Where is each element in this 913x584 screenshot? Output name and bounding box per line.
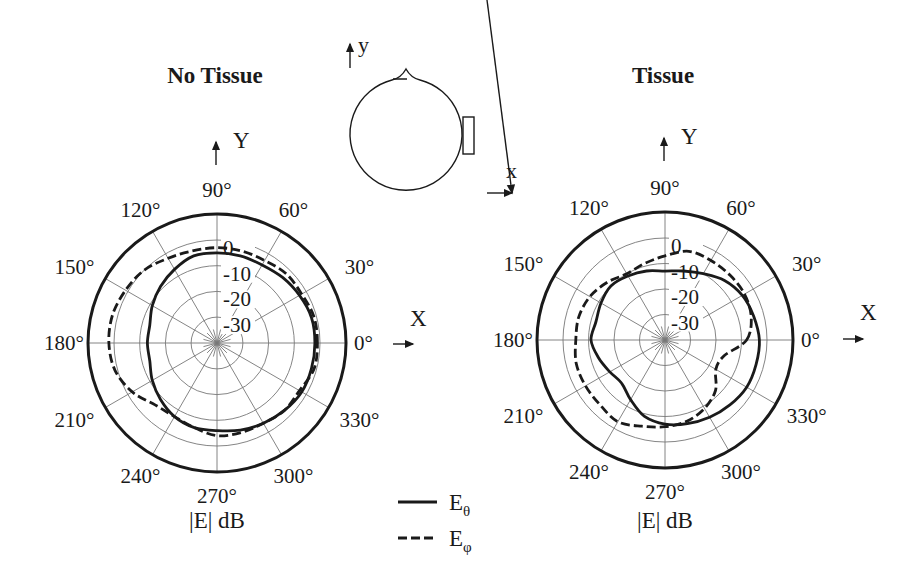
svg-text:Eφ: Eφ [449, 526, 472, 555]
angle-tick-label: 210° [503, 404, 543, 428]
radial-gridline [217, 343, 329, 408]
figure-canvas: No Tissue Y X 0-10-20-300°30°60°90°120°1… [0, 0, 913, 584]
angle-tick-label: 330° [787, 404, 827, 428]
y-axis-label: Y [233, 128, 250, 153]
angle-tick-label: 90° [650, 176, 679, 200]
angle-tick-label: 240° [569, 460, 609, 484]
angle-tick-label: 300° [721, 460, 761, 484]
x-axis-label: X [860, 300, 877, 325]
angle-tick-label: 120° [569, 196, 609, 220]
angle-tick-label: 60° [279, 198, 308, 222]
svg-text:Eθ: Eθ [449, 490, 470, 519]
angle-tick-label: 180° [44, 331, 84, 355]
polar-chart-no-tissue: No Tissue Y X 0-10-20-300°30°60°90°120°1… [44, 63, 427, 533]
angle-tick-label: 180° [493, 328, 533, 352]
radial-axis-label: |E| dB [189, 508, 245, 533]
angle-tick-label: 120° [121, 198, 161, 222]
head-y-label: y [358, 32, 369, 57]
x-axis-label: X [410, 306, 427, 331]
legend-label: E [449, 490, 463, 515]
chart-title: No Tissue [167, 63, 263, 88]
radial-tick-label: -30 [671, 311, 699, 335]
angle-tick-label: 300° [274, 464, 314, 488]
angle-tick-label: 240° [121, 464, 161, 488]
head-x-label: x [506, 158, 517, 183]
angle-tick-label: 150° [503, 252, 543, 276]
radial-axis-label: |E| dB [637, 508, 693, 533]
radial-gridline [601, 340, 665, 451]
legend-item-e-phi: Eφ [398, 526, 472, 555]
angle-tick-label: 0° [801, 328, 820, 352]
angle-tick-label: 330° [340, 408, 380, 432]
legend: Eθ Eφ [398, 490, 472, 555]
radial-tick-label: -20 [671, 285, 699, 309]
angle-tick-label: 0° [354, 331, 373, 355]
angle-tick-label: 270° [645, 480, 685, 504]
legend-item-e-theta: Eθ [398, 490, 470, 519]
angle-tick-label: 60° [726, 196, 755, 220]
angle-tick-label: 30° [792, 252, 821, 276]
angle-tick-label: 30° [345, 255, 374, 279]
radial-gridline [665, 340, 729, 451]
radial-gridline [105, 279, 217, 344]
angle-tick-label: 90° [202, 178, 231, 202]
legend-subscript: θ [463, 503, 470, 519]
antenna-device [463, 117, 474, 154]
radial-tick-label: -30 [223, 313, 251, 337]
legend-label: E [449, 526, 463, 551]
radial-gridline [153, 343, 218, 455]
angle-tick-label: 150° [55, 255, 95, 279]
angle-tick-label: 270° [197, 484, 237, 508]
y-axis-label: Y [681, 124, 698, 149]
legend-subscript: φ [463, 539, 472, 555]
angle-tick-label: 210° [55, 408, 95, 432]
radial-tick-label: -20 [223, 287, 251, 311]
polar-chart-tissue: Tissue Y X 0-10-20-300°30°60°90°120°150°… [493, 63, 877, 533]
chart-title: Tissue [632, 63, 694, 88]
radial-tick-label: -10 [223, 262, 251, 286]
radial-gridline [105, 343, 217, 408]
head-orientation-diagram: y x [350, 0, 517, 193]
head-outline [350, 69, 462, 190]
radial-gridline [217, 343, 282, 455]
